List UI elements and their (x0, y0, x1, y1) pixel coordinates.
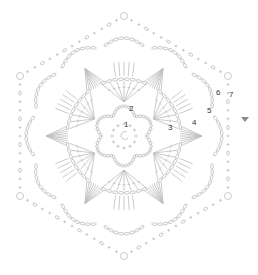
round-label-6: 6 (216, 88, 221, 97)
round-label-2: 2 (129, 104, 134, 113)
round-label-4: 4 (192, 118, 197, 127)
crochet-motif-diagram: 1234567 (0, 0, 258, 275)
chart-linework (17, 13, 232, 260)
start-marker-icon (241, 117, 249, 122)
round-label-1: 1 (124, 120, 129, 129)
round-label-5: 5 (207, 106, 212, 115)
round-label-7: 7 (229, 90, 234, 99)
round-label-3: 3 (168, 123, 173, 132)
